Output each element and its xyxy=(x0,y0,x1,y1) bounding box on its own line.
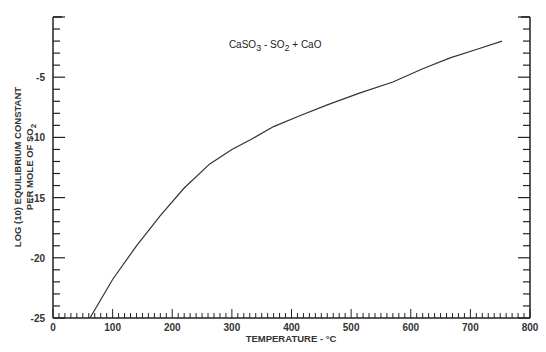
reaction-annotation: CaSO3 - SO2 + CaO xyxy=(229,39,322,53)
x-tick-label: 800 xyxy=(522,322,539,333)
equilibrium-curve xyxy=(90,41,502,318)
x-axis-title: TEMPERATURE - °C xyxy=(246,333,337,344)
y-tick-label: -20 xyxy=(31,253,46,264)
x-tick-label: 200 xyxy=(164,322,181,333)
y-tick-label: -25 xyxy=(31,313,46,324)
axis-ticks xyxy=(53,17,530,318)
chart: 0100200300400500600700800-5-10-15-20-25 … xyxy=(0,0,546,352)
y-axis-title: LOG (10) EQUILIBRIUM CONSTANT PER MOLE O… xyxy=(12,87,38,247)
x-tick-label: 500 xyxy=(343,322,360,333)
x-tick-label: 700 xyxy=(462,322,479,333)
y-tick-label: -5 xyxy=(36,72,45,83)
x-tick-label: 600 xyxy=(402,322,419,333)
y-axis-title-line1: LOG (10) EQUILIBRIUM CONSTANT xyxy=(12,87,23,247)
axis-tick-labels: 0100200300400500600700800-5-10-15-20-25 xyxy=(31,72,539,333)
x-tick-label: 0 xyxy=(50,322,56,333)
x-tick-label: 300 xyxy=(224,322,241,333)
x-tick-label: 100 xyxy=(104,322,121,333)
plot-frame xyxy=(53,17,530,318)
x-tick-label: 400 xyxy=(283,322,300,333)
